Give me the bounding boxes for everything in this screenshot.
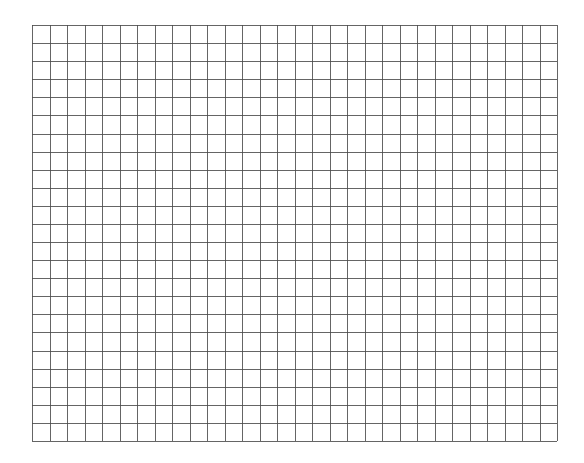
grid-lines [32, 25, 557, 441]
blank-grid-sheet [32, 25, 557, 441]
